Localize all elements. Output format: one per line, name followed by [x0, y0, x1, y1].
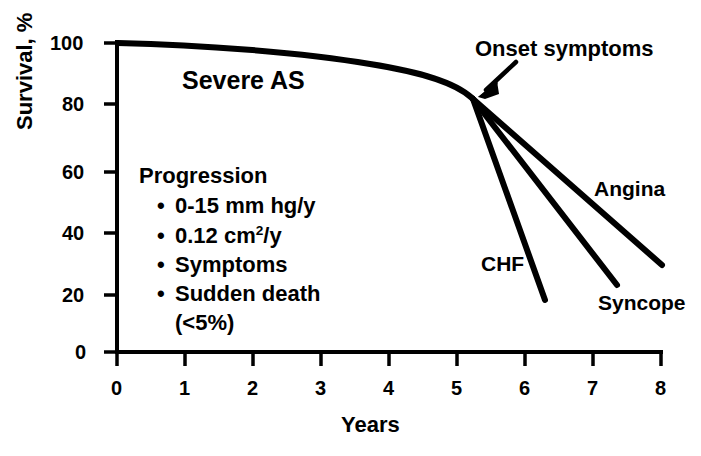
list-item: • 0.12 cm2/y	[157, 221, 320, 250]
label-chf: CHF	[481, 253, 524, 274]
x-tick-label-7: 7	[587, 378, 598, 398]
y-tick-label-40: 40	[62, 223, 84, 243]
bullet-icon: •	[157, 250, 165, 279]
list-item-label: Symptoms	[175, 252, 287, 277]
progression-list: • 0-15 mm hg/y • 0.12 cm2/y • Symptoms •…	[139, 191, 320, 337]
list-item-label: Sudden death	[175, 281, 320, 306]
y-tick-label-80: 80	[62, 94, 84, 114]
onset-symptoms-arrow-icon	[478, 62, 516, 99]
x-tick-label-0: 0	[111, 378, 122, 398]
x-tick-label-3: 3	[315, 378, 326, 398]
list-item-label: 0-15 mm hg/y	[175, 193, 316, 218]
list-item: • 0-15 mm hg/y	[157, 191, 320, 220]
x-tick-label-1: 1	[179, 378, 190, 398]
x-tick-label-8: 8	[655, 378, 666, 398]
progression-annotation: Progression • 0-15 mm hg/y • 0.12 cm2/y …	[139, 161, 320, 338]
x-tick-label-2: 2	[247, 378, 258, 398]
bullet-icon: •	[157, 279, 165, 308]
x-axis-title: Years	[341, 414, 400, 436]
list-item-subnote: (<5%)	[175, 308, 320, 337]
y-axis-title: Survival, %	[14, 13, 36, 130]
label-angina: Angina	[594, 178, 665, 199]
bullet-icon: •	[157, 221, 165, 250]
y-tick-label-60: 60	[62, 162, 84, 182]
y-tick-label-0: 0	[75, 342, 86, 362]
survival-chart-figure: 100 80 60 40 20 0 0 1 2 3 4 5 6 7 8 Surv…	[0, 0, 701, 456]
list-item-label: 0.12 cm2/y	[175, 223, 282, 248]
x-tick-label-4: 4	[383, 378, 394, 398]
list-item: • Sudden death (<5%)	[157, 279, 320, 338]
x-tick-label-5: 5	[451, 378, 462, 398]
label-onset-symptoms: Onset symptoms	[475, 38, 654, 60]
bullet-icon: •	[157, 191, 165, 220]
progression-heading: Progression	[139, 161, 320, 190]
x-axis-ticks	[117, 352, 661, 366]
x-tick-label-6: 6	[519, 378, 530, 398]
y-tick-label-20: 20	[62, 285, 84, 305]
label-severe-as: Severe AS	[182, 68, 305, 93]
label-syncope: Syncope	[598, 292, 686, 313]
y-tick-label-100: 100	[50, 33, 83, 53]
list-item: • Symptoms	[157, 250, 320, 279]
